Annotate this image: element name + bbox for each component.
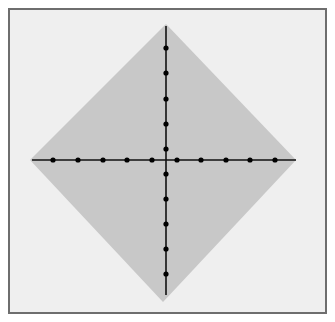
horizontal-dot-marker-5 [149, 157, 154, 162]
horizontal-dot-marker-10 [272, 157, 277, 162]
diamond-square-sheet [30, 24, 296, 302]
horizontal-dot-marker-6 [174, 157, 179, 162]
horizontal-dot-marker-9 [247, 157, 252, 162]
vertical-dot-marker-9 [163, 246, 168, 251]
folded-square-diagram [0, 0, 335, 322]
horizontal-dot-marker-4 [124, 157, 129, 162]
vertical-dot-marker-8 [163, 221, 168, 226]
horizontal-dot-marker-1 [50, 157, 55, 162]
vertical-dot-marker-7 [163, 196, 168, 201]
vertical-dot-marker-3 [163, 96, 168, 101]
vertical-dot-marker-2 [163, 70, 168, 75]
horizontal-dot-marker-8 [223, 157, 228, 162]
vertical-dot-marker-6 [163, 171, 168, 176]
vertical-dot-marker-1 [163, 45, 168, 50]
horizontal-dot-marker-3 [100, 157, 105, 162]
vertical-dot-marker-10 [163, 271, 168, 276]
vertical-dot-marker-5 [163, 146, 168, 151]
horizontal-dot-marker-2 [75, 157, 80, 162]
vertical-dot-marker-4 [163, 121, 168, 126]
horizontal-dot-marker-7 [198, 157, 203, 162]
